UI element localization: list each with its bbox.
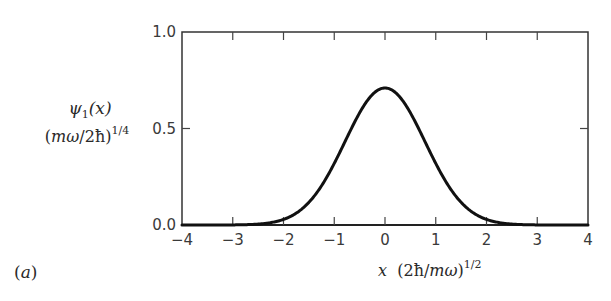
plot-border [182, 32, 588, 225]
psi-symbol: ψ [68, 98, 81, 118]
wavefunction-curve [182, 88, 588, 225]
y-tick-labels: 0.00.51.0 [152, 23, 176, 234]
x-tick-label: −2 [272, 231, 294, 249]
tick-marks [182, 32, 588, 225]
y-tick-label: 0.0 [152, 216, 176, 234]
x-scale-close: ) [458, 261, 464, 280]
panel-letter: a [21, 262, 31, 282]
x-tick-label: 4 [583, 231, 593, 249]
x-tick-label: −3 [222, 231, 244, 249]
panel-paren-close: ) [31, 262, 38, 282]
chart: −4−3−2−101234 0.00.51.0 [0, 0, 611, 301]
plot-frame [182, 32, 588, 225]
m-omega: mω [51, 127, 79, 146]
panel-label: (a) [14, 262, 37, 282]
x-variable: x [378, 261, 387, 280]
x-scale-open: (2ħ/ [397, 261, 429, 280]
x-scale-exponent: 1/2 [464, 258, 482, 271]
x-tick-label: 2 [482, 231, 492, 249]
panel-paren-open: ( [14, 262, 21, 282]
x-axis-label: x (2ħ/mω)1/2 [378, 260, 482, 280]
x-tick-label: 1 [431, 231, 441, 249]
y-axis-label-scale: (mω/2ħ)1/4 [22, 126, 152, 146]
x-tick-label: 0 [380, 231, 390, 249]
x-scale-m-omega: mω [429, 261, 457, 280]
psi-subscript: 1 [82, 108, 89, 121]
y-tick-label: 0.5 [152, 120, 176, 138]
x-tick-label: 3 [532, 231, 542, 249]
scale-exponent: 1/4 [111, 124, 129, 137]
scale-rest: /2ħ) [79, 127, 111, 146]
y-axis-label-function: ψ1(x) [50, 98, 130, 121]
x-tick-labels: −4−3−2−101234 [171, 231, 593, 249]
psi-argument: (x) [89, 98, 112, 118]
x-tick-label: −1 [323, 231, 345, 249]
y-tick-label: 1.0 [152, 23, 176, 41]
